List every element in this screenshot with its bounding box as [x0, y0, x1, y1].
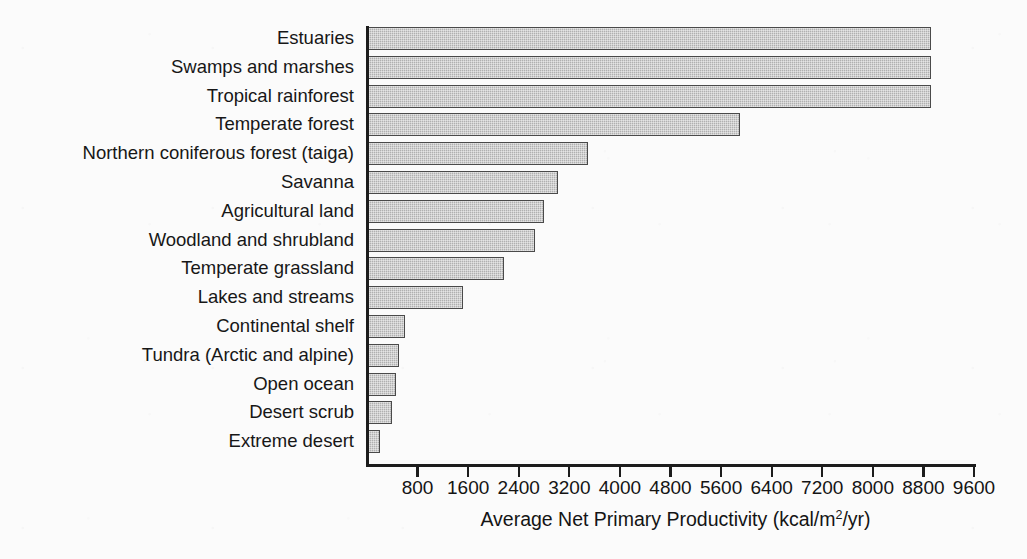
- bar-row: [368, 314, 983, 343]
- x-axis-tick: [973, 466, 975, 477]
- bar: [368, 142, 588, 165]
- x-axis-tick-label: 8000: [847, 477, 899, 499]
- x-axis-tick-label: 2400: [493, 477, 545, 499]
- bar: [368, 27, 931, 50]
- bar: [368, 401, 392, 424]
- category-label: Estuaries: [0, 26, 360, 55]
- category-label: Agricultural land: [0, 199, 360, 228]
- x-axis-tick-label: 5600: [695, 477, 747, 499]
- bar-row: [368, 84, 983, 113]
- x-axis-tick-label: 7200: [796, 477, 848, 499]
- category-axis-labels: EstuariesSwamps and marshesTropical rain…: [0, 26, 360, 458]
- chart-root: EstuariesSwamps and marshesTropical rain…: [0, 0, 1027, 559]
- category-label: Savanna: [0, 170, 360, 199]
- category-label: Northern coniferous forest (taiga): [0, 141, 360, 170]
- x-axis-tick: [619, 466, 621, 477]
- bar: [368, 257, 504, 280]
- category-label: Tundra (Arctic and alpine): [0, 343, 360, 372]
- x-axis-tick: [720, 466, 722, 477]
- bar-row: [368, 55, 983, 84]
- category-label: Temperate grassland: [0, 256, 360, 285]
- x-axis-tick: [821, 466, 823, 477]
- bar-row: [368, 343, 983, 372]
- x-axis-tick-label: 4000: [594, 477, 646, 499]
- x-axis-tick-label: 4800: [645, 477, 697, 499]
- bar: [368, 171, 558, 194]
- x-axis-tick: [518, 466, 520, 477]
- bar-row: [368, 228, 983, 257]
- x-axis-tick: [872, 466, 874, 477]
- x-axis-tick-label: 1600: [442, 477, 494, 499]
- bar: [368, 56, 931, 79]
- axis-title-superscript: 2: [835, 508, 842, 522]
- vertical-axis-line: [366, 26, 369, 466]
- x-axis-tick-label: 3200: [543, 477, 595, 499]
- bar-row: [368, 372, 983, 401]
- bar: [368, 113, 740, 136]
- x-axis-title: Average Net Primary Productivity (kcal/m…: [368, 508, 983, 531]
- bar-row: [368, 26, 983, 55]
- bar-row: [368, 285, 983, 314]
- x-axis-tick-label: 9600: [948, 477, 1000, 499]
- bar-row: [368, 256, 983, 285]
- bar: [368, 229, 535, 252]
- x-axis-tick-label: 8800: [897, 477, 949, 499]
- category-label: Extreme desert: [0, 429, 360, 458]
- bar: [368, 344, 399, 367]
- category-label: Desert scrub: [0, 400, 360, 429]
- bar-row: [368, 429, 983, 458]
- plot-area: [368, 26, 983, 466]
- bar: [368, 430, 380, 453]
- x-axis-tick-label: 6400: [746, 477, 798, 499]
- category-label: Woodland and shrubland: [0, 228, 360, 257]
- category-label: Continental shelf: [0, 314, 360, 343]
- x-axis-tick: [467, 466, 469, 477]
- bar: [368, 286, 463, 309]
- category-label: Swamps and marshes: [0, 55, 360, 84]
- category-label: Tropical rainforest: [0, 84, 360, 113]
- category-label: Temperate forest: [0, 112, 360, 141]
- bar: [368, 200, 544, 223]
- category-label: Lakes and streams: [0, 285, 360, 314]
- bar: [368, 85, 931, 108]
- x-axis-tick: [416, 466, 418, 477]
- bar-row: [368, 141, 983, 170]
- bar-row: [368, 199, 983, 228]
- bar: [368, 373, 396, 396]
- x-axis-tick: [669, 466, 671, 477]
- bar: [368, 315, 405, 338]
- x-axis-tick: [771, 466, 773, 477]
- bar-row: [368, 400, 983, 429]
- bar-row: [368, 170, 983, 199]
- x-axis-tick: [568, 466, 570, 477]
- category-label: Open ocean: [0, 372, 360, 401]
- x-axis-tick: [922, 466, 924, 477]
- x-axis-tick-label: 800: [392, 477, 444, 499]
- bar-row: [368, 112, 983, 141]
